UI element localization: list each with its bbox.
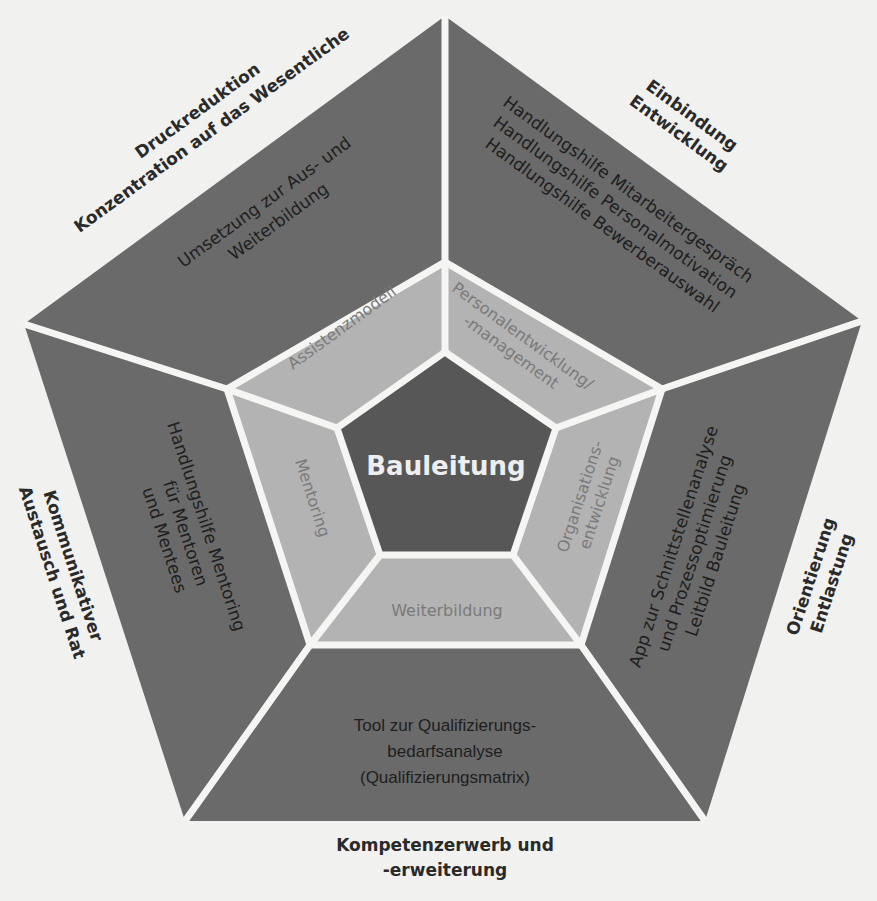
svg-text:(Qualifizierungsmatrix): (Qualifizierungsmatrix) [360,768,530,787]
svg-text:bedarfsanalyse: bedarfsanalyse [387,742,502,761]
svg-text:-erweiterung: -erweiterung [383,860,507,880]
outside-label-einbindung: Einbindung Entwicklung [626,73,745,176]
svg-text:Tool zur Qualifizierungs-: Tool zur Qualifizierungs- [354,716,536,735]
core-label: Bauleitung [366,451,525,481]
middle-segment-weiterbildung: Weiterbildung [391,601,503,620]
outside-label-kompetenzerwerb: Kompetenzerwerb und -erweiterung [336,835,554,880]
pentagon-diagram: Bauleitung Assistenzmodell Personalentwi… [0,0,877,901]
svg-text:Kompetenzerwerb und: Kompetenzerwerb und [336,835,554,855]
